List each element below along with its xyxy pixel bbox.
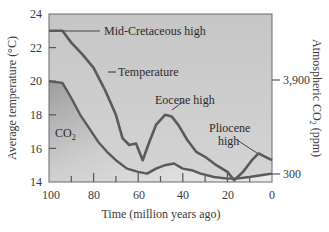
x-axis-title: Time (million years ago) [101,207,220,221]
y2-title-main: Atmospheric CO [310,39,324,121]
y-tick-24: 24 [30,7,42,21]
y-tick-20: 20 [30,74,42,88]
y2-axis-title: Atmospheric CO2 (ppm) [308,39,324,157]
annot-co2-sub: 2 [72,133,76,142]
y-tick-16: 16 [30,142,42,156]
x-tick-0: 0 [269,188,275,202]
y-tick-18: 18 [30,108,42,122]
y-tick-14: 14 [30,175,42,189]
annot-pliocene-2: high [218,134,239,148]
chart: 24 22 20 18 16 14 100 80 60 40 20 0 3,90… [0,0,329,232]
y2-title-unit: (ppm) [310,125,324,157]
x-tick-100: 100 [42,188,60,202]
x-tick-60: 60 [133,188,145,202]
annot-co2-main: CO [55,126,72,140]
y-axis-title: Average temperature (°C) [5,36,19,160]
y2-tick-label-3900: 3,900 [283,73,310,87]
y-tick-22: 22 [30,41,42,55]
annot-mid-cretaceous-high: Mid-Cretaceous high [104,24,206,38]
annot-eocene-high: Eocene high [155,93,215,107]
x-tick-80: 80 [88,188,100,202]
annot-temperature: Temperature [118,65,178,79]
y2-tick-label-300: 300 [283,167,301,181]
x-tick-40: 40 [177,188,189,202]
x-tick-20: 20 [222,188,234,202]
annot-pliocene-1: Pliocene [209,121,250,135]
